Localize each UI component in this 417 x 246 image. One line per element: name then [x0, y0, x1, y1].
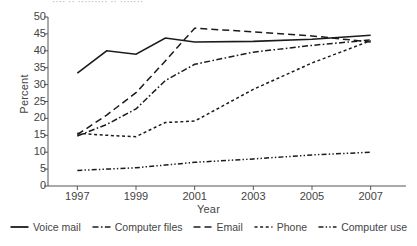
cut-off-title: ···· ·· ········· ·· ·······	[52, 0, 382, 5]
axis-lines	[44, 17, 406, 190]
chart-legend: Voice mailComputer filesEmailPhoneComput…	[0, 222, 417, 233]
y-tick-40: 40	[20, 44, 46, 56]
series-line-email	[77, 28, 370, 134]
y-tick-35: 35	[20, 61, 46, 73]
x-tick-2005: 2005	[292, 190, 332, 202]
legend-swatch-dotted-icon	[254, 223, 273, 231]
line-chart: ···· ·· ········· ·· ······· Percent Yea…	[0, 0, 417, 246]
legend-swatch-dashed-icon	[193, 223, 212, 231]
y-tick-labels: 05101520253035404550	[16, 0, 46, 246]
y-tick-20: 20	[20, 111, 46, 123]
series-line-computer-use	[77, 152, 370, 170]
y-tick-15: 15	[20, 128, 46, 140]
series-line-computer-files	[77, 40, 370, 136]
data-series-group	[77, 28, 370, 170]
legend-item-computer-files[interactable]: Computer files	[92, 222, 183, 233]
legend-swatch-dashdot-icon	[92, 223, 111, 231]
legend-item-email[interactable]: Email	[193, 222, 242, 233]
y-tick-45: 45	[20, 27, 46, 39]
legend-label: Computer use	[341, 222, 407, 233]
legend-swatch-dashdotdot-icon	[318, 223, 337, 231]
y-tick-30: 30	[20, 78, 46, 90]
legend-label: Voice mail	[33, 222, 81, 233]
y-tick-0: 0	[20, 179, 46, 191]
x-tick-2007: 2007	[351, 190, 391, 202]
y-tick-50: 50	[20, 10, 46, 22]
y-tick-25: 25	[20, 95, 46, 107]
legend-item-phone[interactable]: Phone	[254, 222, 307, 233]
x-tick-2003: 2003	[233, 190, 273, 202]
y-tick-10: 10	[20, 145, 46, 157]
y-tick-5: 5	[20, 162, 46, 174]
legend-label: Email	[216, 222, 242, 233]
series-line-phone	[77, 41, 370, 137]
x-axis-label: Year	[0, 203, 417, 215]
legend-item-computer-use[interactable]: Computer use	[318, 222, 407, 233]
x-tick-1997: 1997	[57, 190, 97, 202]
series-line-voice-mail	[77, 35, 370, 73]
legend-label: Computer files	[115, 222, 183, 233]
legend-item-voice-mail[interactable]: Voice mail	[10, 222, 81, 233]
legend-swatch-solid-icon	[10, 223, 29, 231]
x-tick-2001: 2001	[175, 190, 215, 202]
x-tick-1999: 1999	[116, 190, 156, 202]
legend-label: Phone	[277, 222, 307, 233]
